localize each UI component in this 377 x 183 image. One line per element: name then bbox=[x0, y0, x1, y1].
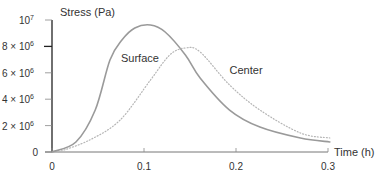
x-tick-label: 0.3 bbox=[321, 161, 335, 172]
y-tick-label: 6 × 106 bbox=[2, 67, 34, 79]
series-lines bbox=[52, 25, 330, 152]
y-tick-label: 2 × 106 bbox=[2, 120, 34, 132]
y-tick-label: 8 × 106 bbox=[2, 40, 34, 52]
y-tick-labels: 02 × 1064 × 1066 × 1068 × 106107 bbox=[2, 14, 38, 158]
y-axis-label: Stress (Pa) bbox=[60, 6, 115, 18]
stress-time-chart: Stress (Pa) Time (h) 02 × 1064 × 1066 × … bbox=[0, 0, 377, 183]
x-tick-label: 0.1 bbox=[137, 161, 151, 172]
x-tick-label: 0.2 bbox=[229, 161, 243, 172]
x-tick-labels: 00.10.20.3 bbox=[49, 161, 335, 172]
surface-line bbox=[52, 25, 330, 152]
y-axis bbox=[44, 20, 52, 152]
x-tick-label: 0 bbox=[49, 161, 55, 172]
x-axis bbox=[45, 148, 328, 152]
y-tick-label: 4 × 106 bbox=[2, 93, 34, 105]
y-tick-label: 107 bbox=[19, 14, 34, 26]
y-tick-label: 0 bbox=[32, 147, 38, 158]
center-label: Center bbox=[230, 64, 263, 76]
x-axis-label: Time (h) bbox=[334, 146, 375, 158]
surface-label: Surface bbox=[121, 52, 159, 64]
